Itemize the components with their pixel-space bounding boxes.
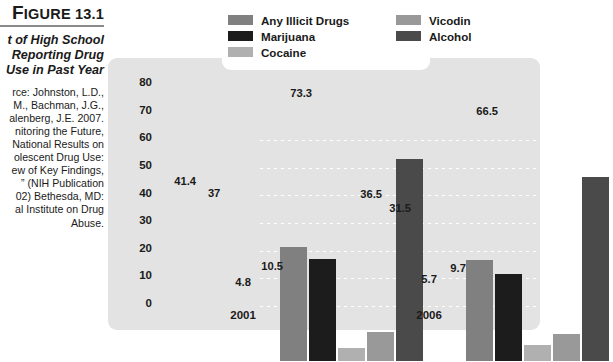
figure-number-title: FIGURE 13.1 [0,6,104,22]
chart-panel [108,58,540,330]
y-axis-tick-label: 20 [118,242,152,254]
legend-item[interactable]: Cocaine [228,44,349,60]
gridline [260,168,613,169]
bar-value-label: 36.5 [360,188,382,200]
bar[interactable] [582,177,609,361]
bar-value-label: 5.7 [421,273,437,285]
bar[interactable] [338,348,365,361]
bar-value-label: 37 [208,187,220,199]
figure-number-rest: IGURE 13.1 [24,6,104,22]
figure-subtitle-line: t of High School [0,33,104,48]
gridline [260,223,613,224]
figure-subtitle: t of High School Reporting Drug Use in P… [0,33,104,79]
figure-subtitle-line: Reporting Drug [0,48,104,63]
legend-item-label: Alcohol [429,30,472,43]
figure-source-note: rce: Johnston, L.D., M., Bachman, J.G., … [0,86,104,230]
y-axis-tick-label: 60 [118,131,152,143]
chart-legend: Any Illicit DrugsMarijuanaCocaineVicodin… [228,12,528,60]
legend-item[interactable]: Alcohol [396,28,472,44]
gridline [260,195,613,196]
legend-column: Any Illicit DrugsMarijuanaCocaine [228,12,349,60]
x-axis-group-label: 2001 [230,309,256,321]
y-axis-tick-label: 0 [118,297,152,309]
figure-subtitle-line: Use in Past Year [0,63,104,78]
title-divider-rule [0,25,104,27]
figure-source-line: Abuse. [0,217,104,230]
figure-source-line: ew of Key Findings, [0,164,104,177]
legend-item-label: Marijuana [261,30,315,43]
bar-value-label: 66.5 [476,105,498,117]
figure-number-dropcap: F [12,2,24,23]
bar[interactable] [280,247,307,361]
bar-value-label: 31.5 [389,202,411,214]
y-axis-tick-label: 10 [118,269,152,281]
legend-swatch-icon [228,47,253,57]
bar[interactable] [396,159,423,361]
y-axis-tick-label: 30 [118,214,152,226]
legend-item[interactable]: Any Illicit Drugs [228,12,349,28]
bar[interactable] [553,334,580,361]
figure-source-line: 02) Bethesda, MD: [0,190,104,203]
bar[interactable] [309,259,336,361]
bar[interactable] [524,345,551,361]
figure-source-line: al Institute on Drug [0,203,104,216]
figure-source-line: National Results on [0,138,104,151]
bar[interactable] [466,260,493,361]
y-axis-tick-label: 50 [118,159,152,171]
y-axis-tick-label: 80 [118,76,152,88]
bar-value-label: 41.4 [174,175,196,187]
legend-item[interactable]: Vicodin [396,12,472,28]
figure-source-line: M., Bachman, J.G., [0,99,104,112]
figure-source-line: rce: Johnston, L.D., [0,86,104,99]
legend-swatch-icon [396,31,421,41]
y-axis-tick-label: 40 [118,187,152,199]
legend-item-label: Vicodin [429,14,471,27]
legend-item[interactable]: Marijuana [228,28,349,44]
y-axis-tick-label: 70 [118,104,152,116]
bar-value-label: 10.5 [261,260,283,272]
legend-item-label: Cocaine [261,46,306,59]
plot-area [260,140,613,361]
legend-item-label: Any Illicit Drugs [261,14,349,27]
legend-swatch-icon [228,15,253,25]
figure-source-line: nitoring the Future, [0,125,104,138]
bar[interactable] [367,332,394,361]
legend-swatch-icon [228,31,253,41]
bar-value-label: 73.3 [290,87,312,99]
figure-source-line: ” (NIH Publication [0,177,104,190]
legend-column: VicodinAlcohol [396,12,472,44]
x-axis-group-label: 2006 [416,309,442,321]
figure-caption-column: FIGURE 13.1 t of High School Reporting D… [0,0,108,346]
gridline [260,140,613,141]
figure-source-line: olescent Drug Use: [0,151,104,164]
legend-swatch-icon [396,15,421,25]
figure-source-line: alenberg, J.E. 2007. [0,112,104,125]
bar-value-label: 4.8 [235,276,251,288]
bar[interactable] [495,274,522,361]
bar-value-label: 9.7 [450,262,466,274]
gridline [260,251,613,252]
